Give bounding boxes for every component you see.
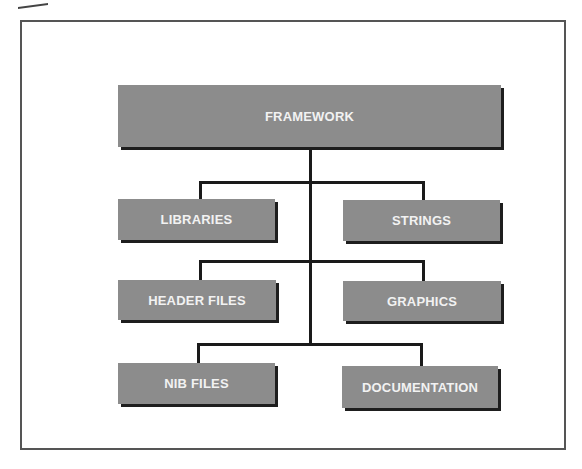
node-documentation: DOCUMENTATION xyxy=(342,366,498,408)
node-label: FRAMEWORK xyxy=(265,109,354,124)
node-label: DOCUMENTATION xyxy=(362,380,478,395)
node-nib-files: NIB FILES xyxy=(118,363,275,404)
node-label: STRINGS xyxy=(392,213,451,228)
row2-connector xyxy=(199,260,425,263)
node-label: LIBRARIES xyxy=(161,212,233,227)
node-label: HEADER FILES xyxy=(148,293,246,308)
row2-left-drop xyxy=(199,260,202,281)
row3-left-drop xyxy=(197,343,200,364)
node-graphics: GRAPHICS xyxy=(343,281,501,321)
row3-connector xyxy=(197,343,423,346)
row2-right-drop xyxy=(422,260,425,282)
corner-mark xyxy=(18,0,48,9)
row1-connector xyxy=(199,181,425,184)
node-label: GRAPHICS xyxy=(387,294,457,309)
node-header-files: HEADER FILES xyxy=(118,280,276,320)
node-framework: FRAMEWORK xyxy=(118,85,501,147)
node-libraries: LIBRARIES xyxy=(118,199,275,240)
node-label: NIB FILES xyxy=(164,376,229,391)
trunk-connector xyxy=(309,147,312,346)
row3-right-drop xyxy=(420,343,423,367)
row1-left-drop xyxy=(199,181,202,200)
node-strings: STRINGS xyxy=(343,200,500,241)
row1-right-drop xyxy=(422,181,425,201)
